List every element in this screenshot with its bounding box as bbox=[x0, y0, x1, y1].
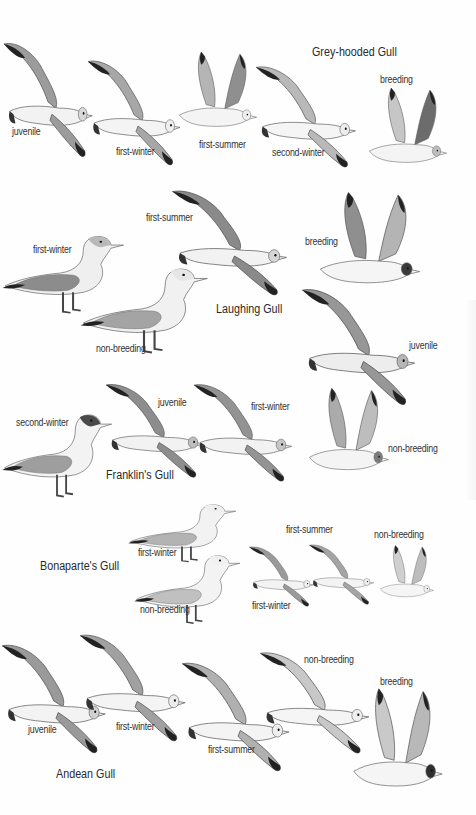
label-first-summer: first-summer bbox=[286, 524, 333, 535]
label-non-breeding: non-breeding bbox=[140, 604, 190, 615]
label-juvenile: juvenile bbox=[158, 397, 186, 408]
species-title-bonapartes-gull: Bonaparte's Gull bbox=[40, 559, 119, 573]
label-first-winter: first-winter bbox=[116, 721, 154, 732]
grey-hooded-breeding-illustration bbox=[366, 86, 450, 170]
franklins-second-winter-illustration bbox=[0, 408, 114, 500]
andean-breeding-illustration bbox=[350, 686, 446, 796]
grey-hooded-first-summer-illustration bbox=[176, 50, 260, 134]
species-title-andean-gull: Andean Gull bbox=[56, 767, 115, 781]
label-non-breeding: non-breeding bbox=[388, 443, 438, 454]
gull-plate: Grey-hooded Gull juvenile first-winter f… bbox=[0, 0, 476, 815]
label-first-winter: first-winter bbox=[251, 401, 289, 412]
label-first-summer: first-summer bbox=[199, 139, 246, 150]
label-non-breeding: non-breeding bbox=[374, 529, 424, 540]
label-breeding: breeding bbox=[380, 74, 413, 85]
bonapartes-first-summer-flying-illustration bbox=[308, 542, 378, 606]
label-non-breeding: non-breeding bbox=[96, 343, 146, 354]
label-juvenile: juvenile bbox=[12, 126, 40, 137]
species-title-laughing-gull: Laughing Gull bbox=[216, 302, 282, 316]
laughing-breeding-illustration bbox=[316, 190, 424, 292]
franklins-non-breeding-illustration bbox=[306, 386, 392, 478]
laughing-non-breeding-illustration bbox=[78, 262, 210, 356]
label-first-winter: first-winter bbox=[116, 146, 154, 157]
species-title-grey-hooded-gull: Grey-hooded Gull bbox=[312, 45, 397, 59]
grey-hooded-juvenile-illustration bbox=[2, 38, 98, 160]
label-first-summer: first-summer bbox=[208, 744, 255, 755]
page-edge-shadow bbox=[464, 300, 476, 500]
bonapartes-non-breeding-flying-illustration bbox=[378, 544, 436, 602]
label-juvenile: juvenile bbox=[28, 724, 56, 735]
label-first-winter: first-winter bbox=[252, 600, 290, 611]
label-second-winter: second-winter bbox=[272, 147, 324, 158]
species-title-franklins-gull: Franklin's Gull bbox=[106, 468, 174, 482]
franklins-first-winter-illustration bbox=[192, 380, 298, 484]
label-juvenile: juvenile bbox=[409, 340, 437, 351]
